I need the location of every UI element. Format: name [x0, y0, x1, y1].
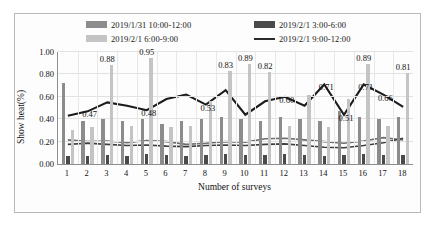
- x-axis-title: Number of surveys: [57, 182, 412, 192]
- x-axis-tick-label: 16: [358, 168, 367, 178]
- bar-value-label: 0.81: [396, 62, 411, 72]
- bar: [125, 156, 128, 164]
- x-axis-tick-label: 11: [260, 168, 268, 178]
- bar-value-label: 0.88: [100, 54, 115, 64]
- bar-value-label: 0.82: [258, 61, 273, 71]
- bar: [303, 155, 306, 164]
- bar: [406, 73, 409, 164]
- y-axis-tick-label: 0.80: [39, 69, 54, 79]
- x-axis-tick-label: 1: [65, 168, 69, 178]
- vertical-gridline: [78, 52, 79, 164]
- bar: [377, 119, 380, 164]
- bar: [180, 121, 183, 164]
- bar: [160, 124, 163, 164]
- bar: [386, 126, 389, 164]
- vertical-gridline: [97, 52, 98, 164]
- x-axis-tick-label: 6: [163, 168, 167, 178]
- bar: [358, 117, 361, 164]
- bar: [239, 119, 242, 164]
- bar: [141, 119, 144, 164]
- x-axis-tick-label: 18: [398, 168, 407, 178]
- legend-row-1: 2019/1/31 10:00-12:00: [86, 18, 191, 31]
- line-value-label: 0.71: [319, 82, 334, 92]
- vertical-gridline: [137, 52, 138, 164]
- vertical-gridline: [314, 52, 315, 164]
- bar: [62, 83, 65, 164]
- vertical-gridline: [255, 52, 256, 164]
- legend-item-3: 2019/2/1 9:00-12:00: [254, 34, 351, 44]
- bar: [101, 119, 104, 164]
- bar: [145, 154, 148, 164]
- y-axis-tick-label: 0.40: [39, 114, 54, 124]
- bar: [165, 155, 168, 164]
- bar: [130, 126, 133, 164]
- bar: [220, 117, 223, 164]
- bar: [279, 117, 282, 164]
- bar: [90, 127, 93, 164]
- line-value-label: 0.47: [82, 109, 97, 119]
- vertical-gridline: [117, 52, 118, 164]
- legend-swatch-bar-icon: [86, 21, 107, 28]
- bar: [169, 127, 172, 164]
- bar: [397, 117, 400, 164]
- vertical-gridline: [196, 52, 197, 164]
- x-axis-tick-label: 7: [183, 168, 187, 178]
- bar: [382, 155, 385, 164]
- bar: [347, 99, 350, 164]
- bar: [121, 121, 124, 164]
- bar: [366, 64, 369, 164]
- x-axis-tick-label: 17: [378, 168, 387, 178]
- vertical-gridline: [216, 52, 217, 164]
- bar: [189, 126, 192, 164]
- bar-value-label: 0.89: [356, 53, 371, 63]
- vertical-gridline: [236, 52, 237, 164]
- vertical-gridline: [275, 52, 276, 164]
- bar: [283, 154, 286, 164]
- line-value-label: 0.71: [358, 82, 373, 92]
- bar: [248, 64, 251, 164]
- bar: [224, 154, 227, 164]
- legend-label-2: 2019/2/1 6:00-9:00: [111, 34, 178, 44]
- vertical-gridline: [374, 52, 375, 164]
- line-value-label: 0.51: [339, 113, 354, 123]
- bar: [298, 119, 301, 164]
- y-axis-ticks: 0.000.200.400.600.801.00: [26, 46, 54, 166]
- bar: [307, 95, 310, 164]
- bar: [327, 127, 330, 164]
- bar: [323, 156, 326, 164]
- bar: [268, 72, 271, 164]
- x-axis-ticks: 123456789101112131415161718: [57, 168, 412, 181]
- vertical-gridline: [334, 52, 335, 164]
- bar: [200, 119, 203, 164]
- bar-value-label: 0.95: [139, 47, 154, 57]
- x-axis-tick-label: 13: [299, 168, 308, 178]
- bar: [263, 155, 266, 164]
- bar: [110, 65, 113, 164]
- legend-label-1: 2019/2/1 3:00-6:00: [279, 20, 346, 30]
- bar: [228, 71, 231, 164]
- x-axis-tick-label: 4: [124, 168, 128, 178]
- x-axis-tick-label: 9: [223, 168, 227, 178]
- bar: [86, 156, 89, 164]
- vertical-gridline: [354, 52, 355, 164]
- legend-row-3: 2019/2/1 6:00-9:00: [86, 32, 178, 45]
- x-axis-tick-label: 3: [104, 168, 108, 178]
- bar: [342, 155, 345, 164]
- bar: [362, 154, 365, 164]
- x-axis-tick-label: 14: [319, 168, 328, 178]
- legend-item-2: 2019/2/1 6:00-9:00: [86, 34, 178, 44]
- x-axis-tick-label: 10: [240, 168, 249, 178]
- legend-item-1: 2019/2/1 3:00-6:00: [254, 20, 346, 30]
- bar: [106, 155, 109, 164]
- bar-value-label: 0.89: [238, 53, 253, 63]
- bar: [401, 155, 404, 164]
- bar: [66, 156, 69, 164]
- vertical-gridline: [295, 52, 296, 164]
- legend-swatch-bar-icon: [86, 35, 107, 42]
- plot-area: 0.880.950.830.890.820.890.810.470.480.53…: [57, 52, 413, 165]
- x-axis-tick-label: 15: [339, 168, 348, 178]
- x-axis-tick-label: 8: [203, 168, 207, 178]
- bar: [318, 121, 321, 164]
- legend-label-3: 2019/2/1 9:00-12:00: [279, 34, 351, 44]
- chart-legend: 2019/1/31 10:00-12:00 2019/2/1 3:00-6:00…: [14, 16, 421, 46]
